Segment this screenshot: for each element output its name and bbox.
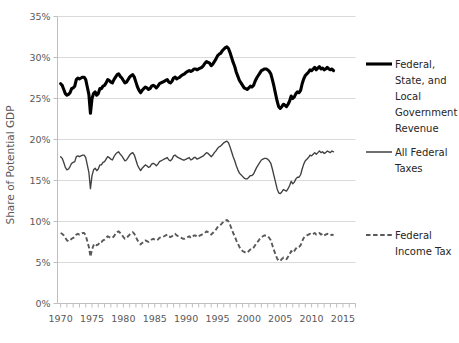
x-tick-label: 2000	[237, 313, 261, 324]
y-axis-title-text: Share of Potential GDP	[4, 106, 16, 225]
y-tick-label: 10%	[29, 216, 50, 227]
x-tick-label: 2015	[331, 313, 355, 324]
legend: Federal,State, andLocalGovernmentRevenue…	[366, 59, 457, 257]
legend-label: Government	[395, 107, 457, 118]
legend-item: All FederalTaxes	[366, 147, 447, 174]
gridlines-group	[58, 17, 356, 304]
y-axis-group: 0%5%10%15%20%25%30%35%	[29, 11, 57, 309]
y-tick-label: 5%	[35, 257, 50, 268]
x-tick-label: 1980	[111, 313, 135, 324]
legend-label: Taxes	[394, 163, 423, 174]
plot-series-group	[61, 47, 334, 261]
series-line	[61, 220, 334, 261]
legend-label: All Federal	[395, 147, 447, 158]
legend-item: Federal,State, andLocalGovernmentRevenue	[366, 59, 457, 134]
x-tick-label: 2005	[268, 313, 292, 324]
y-tick-label: 30%	[29, 52, 50, 63]
y-tick-label: 20%	[29, 134, 50, 145]
legend-label: Federal,	[395, 59, 435, 70]
line-chart: 0%5%10%15%20%25%30%35% 19701975198019851…	[0, 0, 459, 343]
legend-label: Income Tax	[395, 246, 452, 257]
x-tick-label: 1990	[174, 313, 198, 324]
series-line	[61, 47, 334, 113]
series-line	[61, 141, 334, 193]
y-tick-label: 15%	[29, 175, 50, 186]
legend-label: Local	[395, 91, 421, 102]
legend-label: State, and	[395, 75, 447, 86]
y-axis-title: Share of Potential GDP	[4, 106, 16, 225]
x-axis-group: 1970197519801985199019952000200520102015	[49, 304, 356, 324]
x-tick-label: 1970	[49, 313, 73, 324]
x-tick-label: 2010	[299, 313, 323, 324]
legend-item: FederalIncome Tax	[366, 230, 452, 257]
legend-label: Revenue	[395, 123, 439, 134]
x-tick-label: 1975	[80, 313, 104, 324]
chart-container: 0%5%10%15%20%25%30%35% 19701975198019851…	[0, 0, 459, 343]
legend-label: Federal	[395, 230, 432, 241]
y-tick-label: 25%	[29, 93, 50, 104]
x-tick-label: 1985	[143, 313, 167, 324]
y-tick-label: 0%	[35, 298, 50, 309]
y-tick-label: 35%	[29, 11, 50, 22]
x-tick-label: 1995	[205, 313, 229, 324]
